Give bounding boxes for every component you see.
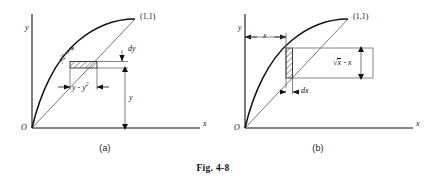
panel-a-point-label: (1,1) [140, 12, 155, 21]
panel-b-dx-label: dx [301, 87, 309, 95]
panel-b-vertical-strip [286, 48, 293, 78]
panel-a-width-exponent: 2 [86, 81, 89, 87]
panel-a-graphic [0, 0, 213, 186]
figure-fig-4-8: y x O (1,1) y2 = x dy y - y2 y (a) [0, 0, 426, 186]
panel-a-y-axis-label: y [25, 24, 29, 32]
panel-b-height-label: √x - x [333, 58, 352, 67]
panel-a-y-dimension [122, 66, 128, 130]
figure-caption: Fig. 4-8 [0, 163, 426, 173]
panel-a-origin-label: O [21, 124, 27, 132]
panel-a-width-minus: - y [76, 83, 86, 92]
panel-b-axes [245, 14, 413, 128]
panel-b-graphic [213, 0, 426, 186]
panel-a-caption: (a) [85, 143, 125, 153]
panel-b-x-width-label: x [263, 32, 267, 40]
panel-b-y-axis-label: y [238, 24, 242, 32]
panel-a-line-y-equals-x [32, 19, 135, 128]
panel-b: y x O (1,1) x dx √x - x (b) [213, 0, 426, 186]
panel-b-caption: (b) [298, 143, 338, 153]
panel-a-height-label: y [129, 94, 133, 102]
panel-b-x-dimension [245, 33, 286, 88]
panel-b-height-tail: - x [341, 58, 351, 67]
panel-b-origin-label: O [234, 124, 240, 132]
panel-b-height-dimension [358, 46, 364, 80]
panel-a: y x O (1,1) y2 = x dy y - y2 y (a) [0, 0, 213, 186]
panel-a-strip-width-label: y - y2 [72, 82, 89, 92]
panel-b-x-axis-label: x [416, 120, 420, 128]
panel-b-point-label: (1,1) [353, 12, 368, 21]
panel-a-horizontal-strip [70, 62, 97, 69]
panel-a-x-axis-label: x [203, 120, 207, 128]
panel-b-line-y-equals-x [245, 19, 348, 128]
panel-a-axes [32, 14, 200, 128]
panel-a-dy-label: dy [128, 45, 136, 53]
